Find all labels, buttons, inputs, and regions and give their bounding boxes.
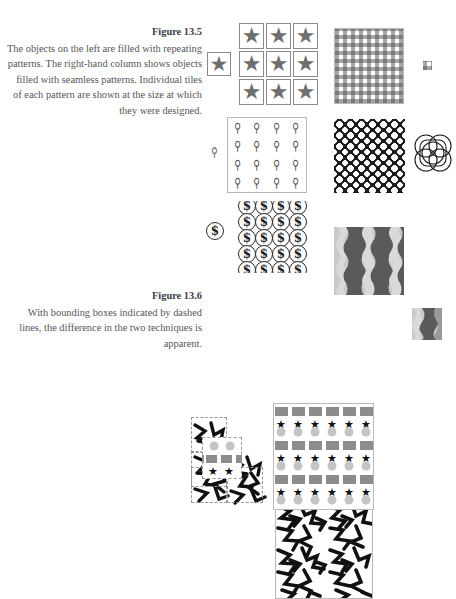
circle-lattice-pattern-tile: [411, 131, 455, 175]
star-tile: ★: [266, 51, 291, 77]
figure-glyph-swatch: ⚲: [207, 139, 221, 165]
star-icon: ★: [242, 53, 262, 75]
star-tile: ★: [293, 51, 318, 77]
figure-13-6-caption: Figure 13.6 With bounding boxes indicate…: [6, 288, 202, 351]
figure-glyph-icon: ⚲: [273, 158, 280, 171]
svg-text:★: ★: [276, 452, 286, 465]
star-tile: ★: [239, 23, 264, 49]
gingham-pattern-block: [334, 28, 404, 104]
star-icon: ★: [269, 25, 289, 47]
figure-glyph-icon: ⚲: [254, 158, 261, 171]
star-icon: ★: [242, 25, 262, 47]
wavy-stripe-pattern-block: [334, 227, 404, 295]
dollar-coin-grid: $ $ $ $ $ $ $ $ $ $ $ $ $ $ $ $ $ $ $ $: [238, 201, 310, 273]
figure-13-5-caption-text: The objects on the left are filled with …: [7, 43, 202, 116]
svg-text:★: ★: [293, 486, 303, 499]
star-icon: ★: [269, 53, 289, 75]
svg-text:★: ★: [276, 486, 286, 499]
figure-glyph-icon: ⚲: [293, 158, 300, 171]
wavy-stripe-pattern-tile: [412, 308, 442, 340]
figure-13-5-label: Figure 13.5: [6, 24, 202, 40]
svg-text:★: ★: [208, 465, 218, 478]
figure-glyph-icon: ⚲: [273, 176, 280, 189]
svg-text:★: ★: [327, 452, 337, 465]
gingham-pattern-tile: [423, 61, 432, 70]
svg-text:★: ★: [361, 418, 371, 431]
shapes-pattern-tile: ★ ★: [202, 437, 242, 479]
figure-13-6-caption-text: With bounding boxes indicated by dashed …: [19, 307, 202, 349]
star-tile: ★: [239, 79, 264, 105]
star-icon: ★: [210, 54, 229, 75]
figure-glyph-icon: ⚲: [273, 139, 280, 152]
figure-glyph-icon: ⚲: [293, 176, 300, 189]
dollar-coin-icon: $: [289, 261, 307, 273]
figure-glyph-icon: ⚲: [273, 121, 280, 134]
svg-text:★: ★: [310, 418, 320, 431]
star-tile: ★: [266, 79, 291, 105]
dollar-coin-icon: $: [255, 261, 273, 273]
svg-text:★: ★: [344, 452, 354, 465]
figure-glyph-icon: ⚲: [234, 176, 241, 189]
svg-text:★: ★: [293, 452, 303, 465]
svg-text:★: ★: [276, 418, 286, 431]
svg-text:★: ★: [293, 418, 303, 431]
star-icon: ★: [296, 25, 316, 47]
coin-row: $ $ $ $: [238, 261, 310, 273]
figure-glyph-icon: ⚲: [254, 139, 261, 152]
svg-text:★: ★: [344, 418, 354, 431]
svg-text:★: ★: [361, 486, 371, 499]
svg-text:★: ★: [224, 465, 234, 478]
star-icon: ★: [242, 81, 262, 103]
svg-text:★: ★: [361, 452, 371, 465]
star-tile: ★: [293, 79, 318, 105]
star-icon: ★: [269, 81, 289, 103]
svg-text:★: ★: [310, 486, 320, 499]
svg-text:★: ★: [327, 486, 337, 499]
dollar-coin-swatch: $: [206, 222, 224, 240]
star-tile-grid: ★ ★ ★ ★ ★ ★ ★ ★ ★: [239, 23, 318, 105]
star-icon: ★: [296, 81, 316, 103]
figure-glyph-icon: ⚲: [234, 158, 241, 171]
figure-glyph-icon: ⚲: [293, 139, 300, 152]
figure-glyph-grid: ⚲ ⚲ ⚲ ⚲ ⚲ ⚲ ⚲ ⚲ ⚲ ⚲ ⚲ ⚲ ⚲ ⚲ ⚲ ⚲: [227, 117, 307, 193]
circle-lattice-pattern-block: [334, 119, 405, 193]
star-tile-swatch: ★: [207, 52, 231, 76]
star-icon: ★: [296, 53, 316, 75]
figure-glyph-icon: ⚲: [234, 121, 241, 134]
figure-glyph-icon: ⚲: [234, 139, 241, 152]
figure-glyph-icon: ⚲: [211, 146, 217, 158]
figure-glyph-icon: ⚲: [254, 121, 261, 134]
star-tile: ★: [266, 23, 291, 49]
star-tile: ★: [239, 51, 264, 77]
svg-text:★: ★: [310, 452, 320, 465]
figure-glyph-icon: ⚲: [254, 176, 261, 189]
seamless-scribble-pattern-block: [275, 499, 373, 599]
figure-13-5-caption: Figure 13.5 The objects on the left are …: [6, 24, 202, 119]
figure-glyph-icon: ⚲: [293, 121, 300, 134]
dollar-coin-icon: $: [272, 261, 290, 273]
star-tile: ★: [293, 23, 318, 49]
figure-13-6-label: Figure 13.6: [6, 288, 202, 304]
dollar-coin-icon: $: [238, 261, 256, 273]
svg-text:★: ★: [344, 486, 354, 499]
svg-text:★: ★: [327, 418, 337, 431]
shapes-pattern-block: ★★ ★★ ★★ ★★ ★★ ★★ ★★ ★★ ★★: [273, 403, 374, 510]
